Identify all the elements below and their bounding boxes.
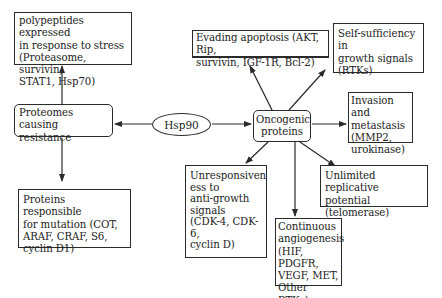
mutation-proteins-box: Proteins responsible for mutation (COT, … bbox=[18, 189, 131, 248]
stress-polypeptides-box: polypeptides expressed in response to st… bbox=[14, 12, 132, 65]
unlimited-replicative-box: Unlimited replicative potential (telomer… bbox=[320, 165, 428, 207]
anti-growth-signals-box: Unresponsiven ess to anti-growth signals… bbox=[185, 165, 267, 258]
oncogenic-proteins-box: Oncogenic proteins bbox=[253, 110, 311, 142]
hsp90-label: Hsp90 bbox=[164, 119, 199, 131]
hsp90-node: Hsp90 bbox=[152, 113, 211, 136]
proteomes-resistance-box: Proteomes causing resistance bbox=[14, 104, 113, 137]
continuous-angiogenesis-box: Continuous angiogenesis (HIF, PDGFR, VEG… bbox=[275, 218, 342, 286]
self-sufficiency-box: Self-sufficiency in growth signals (RTKs… bbox=[333, 23, 424, 73]
evading-apoptosis-box: Evading apoptosis (AKT, Rip, survivin, I… bbox=[192, 30, 329, 58]
invasion-metastasis-box: Invasion and metastasis (MMP2, urokinase… bbox=[348, 92, 413, 143]
